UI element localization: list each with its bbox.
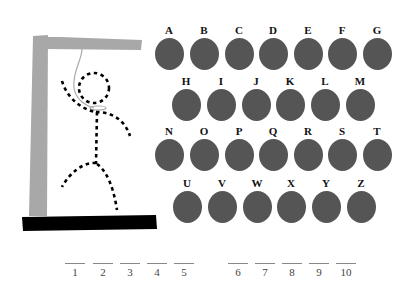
- letter-disc: [294, 139, 323, 171]
- letter-label: H: [171, 75, 201, 87]
- letter-blank-10: 10: [336, 263, 356, 283]
- letter-blank-2: 2: [93, 263, 113, 283]
- figure-body: [96, 112, 97, 164]
- letter-disc: [243, 191, 272, 223]
- blank-number: 4: [147, 266, 167, 278]
- letter-label: E: [293, 24, 323, 36]
- letter-disc: [225, 139, 254, 171]
- letter-blank-4: 4: [147, 263, 167, 283]
- letter-button-d[interactable]: D: [258, 24, 288, 70]
- letter-button-e[interactable]: E: [293, 24, 323, 70]
- letter-button-g[interactable]: G: [362, 24, 392, 70]
- letter-button-j[interactable]: J: [241, 75, 271, 121]
- hangman-figure: [62, 73, 130, 210]
- blank-line: [93, 263, 113, 264]
- letter-disc: [328, 139, 357, 171]
- letter-disc: [208, 191, 237, 223]
- letter-label: K: [275, 75, 305, 87]
- letter-label: P: [224, 125, 254, 137]
- blank-number: 6: [228, 266, 248, 278]
- letter-button-z[interactable]: Z: [346, 177, 376, 223]
- blank-number: 1: [65, 266, 85, 278]
- letter-label: M: [345, 75, 375, 87]
- letter-label: J: [241, 75, 271, 87]
- letter-label: R: [293, 125, 323, 137]
- letter-button-c[interactable]: C: [224, 24, 254, 70]
- letter-button-i[interactable]: I: [206, 75, 236, 121]
- blank-number: 7: [255, 266, 275, 278]
- letter-button-o[interactable]: O: [189, 125, 219, 171]
- blank-number: 9: [309, 266, 329, 278]
- letter-disc: [276, 89, 305, 121]
- gallows-base: [22, 215, 157, 231]
- letter-label: A: [154, 24, 184, 36]
- blank-line: [255, 263, 275, 264]
- blank-number: 8: [282, 266, 302, 278]
- blank-line: [147, 263, 167, 264]
- letter-button-w[interactable]: W: [242, 177, 272, 223]
- blank-number: 2: [93, 266, 113, 278]
- letter-button-s[interactable]: S: [327, 125, 357, 171]
- letter-label: X: [276, 177, 306, 189]
- letter-disc: [155, 139, 184, 171]
- letter-button-y[interactable]: Y: [311, 177, 341, 223]
- letter-blank-3: 3: [120, 263, 140, 283]
- letter-blank-6: 6: [228, 263, 248, 283]
- letter-disc: [155, 38, 184, 70]
- letter-label: V: [207, 177, 237, 189]
- letter-label: W: [242, 177, 272, 189]
- letter-disc: [225, 38, 254, 70]
- letter-label: C: [224, 24, 254, 36]
- letter-button-p[interactable]: P: [224, 125, 254, 171]
- figure-left-leg: [62, 163, 96, 187]
- letter-disc: [294, 38, 323, 70]
- blank-line: [309, 263, 329, 264]
- letter-disc: [347, 191, 376, 223]
- letter-button-t[interactable]: T: [362, 125, 392, 171]
- blank-line: [174, 263, 194, 264]
- letter-blank-1: 1: [65, 263, 85, 283]
- letter-disc: [311, 89, 340, 121]
- letter-button-r[interactable]: R: [293, 125, 323, 171]
- letter-disc: [190, 38, 219, 70]
- letter-button-k[interactable]: K: [275, 75, 305, 121]
- letter-disc: [259, 38, 288, 70]
- letter-disc: [328, 38, 357, 70]
- letter-label: L: [310, 75, 340, 87]
- blank-line: [228, 263, 248, 264]
- letter-button-u[interactable]: U: [172, 177, 202, 223]
- figure-right-leg: [97, 164, 117, 210]
- letter-label: O: [189, 125, 219, 137]
- letter-disc: [190, 139, 219, 171]
- letter-disc: [277, 191, 306, 223]
- letter-label: Q: [258, 125, 288, 137]
- letter-disc: [173, 191, 202, 223]
- blank-line: [336, 263, 356, 264]
- letter-button-x[interactable]: X: [276, 177, 306, 223]
- letter-button-l[interactable]: L: [310, 75, 340, 121]
- blank-number: 3: [120, 266, 140, 278]
- letter-disc: [363, 38, 392, 70]
- letter-disc: [312, 191, 341, 223]
- blank-line: [282, 263, 302, 264]
- letter-button-q[interactable]: Q: [258, 125, 288, 171]
- letter-label: T: [362, 125, 392, 137]
- letter-button-f[interactable]: F: [327, 24, 357, 70]
- letter-label: Z: [346, 177, 376, 189]
- blank-number: 10: [336, 266, 356, 278]
- letter-blank-7: 7: [255, 263, 275, 283]
- letter-button-m[interactable]: M: [345, 75, 375, 121]
- letter-label: Y: [311, 177, 341, 189]
- letter-label: D: [258, 24, 288, 36]
- letter-button-b[interactable]: B: [189, 24, 219, 70]
- letter-button-v[interactable]: V: [207, 177, 237, 223]
- gallows-post: [29, 35, 48, 216]
- letter-button-h[interactable]: H: [171, 75, 201, 121]
- letter-button-n[interactable]: N: [154, 125, 184, 171]
- letter-button-a[interactable]: A: [154, 24, 184, 70]
- letter-blank-5: 5: [174, 263, 194, 283]
- blank-line: [65, 263, 85, 264]
- gallows-beam: [33, 36, 142, 50]
- letter-label: G: [362, 24, 392, 36]
- letter-disc: [346, 89, 375, 121]
